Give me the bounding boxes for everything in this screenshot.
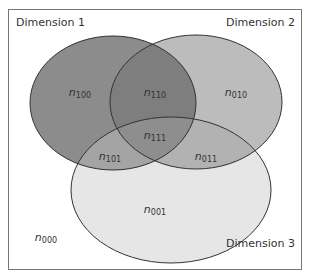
set-label-dimension-3: Dimension 3 bbox=[226, 237, 295, 250]
region-n101: n101 bbox=[99, 150, 121, 164]
region-n100: n100 bbox=[69, 86, 91, 100]
region-n011: n011 bbox=[195, 150, 217, 164]
region-n000: n000 bbox=[35, 231, 57, 245]
region-n010: n010 bbox=[225, 86, 247, 100]
region-n001: n001 bbox=[144, 203, 166, 217]
region-n111: n111 bbox=[144, 129, 166, 143]
region-n110: n110 bbox=[144, 86, 166, 100]
set-label-dimension-2: Dimension 2 bbox=[226, 16, 295, 29]
set-label-dimension-1: Dimension 1 bbox=[16, 16, 85, 29]
venn-diagram: Dimension 1 Dimension 2 Dimension 3 n100… bbox=[0, 0, 310, 280]
